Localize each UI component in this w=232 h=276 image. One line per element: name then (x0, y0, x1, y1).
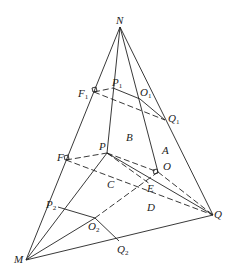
label-O: O (163, 160, 171, 172)
edge-M-O2 (26, 218, 95, 260)
edge-P2-O2 (58, 207, 95, 218)
edge-P-Q (107, 153, 213, 215)
label-P: P (98, 140, 106, 152)
solid-edges (26, 27, 213, 260)
label-A: A (161, 144, 169, 156)
label-C: C (107, 178, 115, 190)
label-P1: P1 (111, 76, 123, 90)
geometry-diagram: NF1P1O1Q1BAFPOCEDP2O2Q2QM (0, 0, 232, 276)
edge-P-O (107, 153, 158, 172)
edge-F-P (66, 153, 107, 160)
right-angle-marker-f (64, 155, 69, 160)
right-angle-marker-o (153, 169, 158, 174)
label-M: M (13, 253, 24, 265)
edge-F-Q (66, 160, 213, 215)
label-N: N (115, 14, 124, 26)
label-F: F (56, 151, 64, 163)
label-E: E (146, 182, 154, 194)
label-O2: O2 (88, 220, 100, 234)
label-Q1: Q1 (168, 112, 180, 126)
edge-P-M (26, 153, 107, 260)
label-Q2: Q2 (117, 243, 129, 257)
edge-N-M (26, 27, 120, 260)
edge-N-Q (120, 27, 213, 215)
label-D: D (146, 201, 155, 213)
label-Q: Q (214, 208, 222, 220)
edge-O-Q (158, 172, 213, 215)
label-P2: P2 (45, 198, 57, 212)
edge-P1-O1 (113, 88, 140, 99)
dashed-edges (66, 88, 213, 218)
edge-N-O (120, 27, 158, 172)
label-B: B (126, 131, 133, 143)
label-F1: F1 (77, 87, 89, 101)
